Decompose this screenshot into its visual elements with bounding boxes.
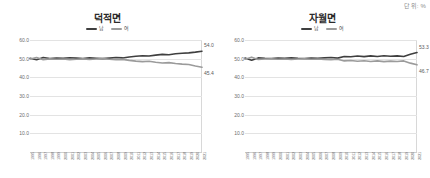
legend-label-female: 여 (339, 26, 344, 31)
x-axis-tick-label: 2015 (377, 152, 382, 160)
x-axis-tick-label: 1995 (30, 152, 35, 160)
end-label-female: 46.7 (419, 68, 429, 74)
x-axis-tick-label: 2016 (169, 152, 174, 160)
x-axis-tick-label: 2002 (291, 152, 296, 160)
x-axis-tick-label: 2021 (202, 152, 207, 160)
y-axis-tick-label: 30.0 (19, 93, 29, 99)
x-axis-tick-label: 1998 (50, 152, 55, 160)
chart-title-deokjeok: 덕적면 (0, 10, 215, 25)
legend-swatch-female-icon (326, 28, 337, 30)
x-axis-tick-label: 2003 (298, 152, 303, 160)
x-axis-tick-label: 2009 (123, 152, 128, 160)
legend-item-female[interactable]: 여 (326, 26, 344, 31)
x-axis-tick-label: 2002 (76, 152, 81, 160)
legend-label-male: 남 (314, 26, 319, 31)
x-axis-tick-label: 2008 (331, 152, 336, 160)
x-axis-tick-label: 2018 (182, 152, 187, 160)
x-axis-tick-label: 2006 (103, 152, 108, 160)
x-axis-tick-label: 1997 (43, 152, 48, 160)
x-axis-tick-label: 1996 (37, 152, 42, 160)
legend-item-male[interactable]: 남 (301, 26, 319, 31)
x-axis-tick-label: 2019 (189, 152, 194, 160)
x-axis-tick-label: 2004 (305, 152, 310, 160)
x-axis-tick-label: 2005 (311, 152, 316, 160)
legend-deokjeok: 남 여 (0, 26, 215, 31)
end-label-female: 45.4 (204, 70, 214, 76)
x-axis-tick-label: 2019 (404, 152, 409, 160)
y-axis-tick-label: 10.0 (234, 130, 244, 136)
y-axis-tick-label: 40.0 (234, 74, 244, 80)
x-axis-tick-label: 1998 (265, 152, 270, 160)
y-axis-tick-label: 40.0 (19, 74, 29, 80)
plot-area-jawol: 60.050.040.030.020.010.0 53.3 46.7 (215, 38, 430, 156)
x-axis-tick-label: 2020 (195, 152, 200, 160)
x-axis-ticks-deokjeok: 1995199619971998199920002001200220032004… (30, 152, 202, 178)
x-axis-tick-label: 2000 (63, 152, 68, 160)
chart-panel-jawol: 자월면 남 여 60.050.040.030.020.010.0 53.3 46… (215, 0, 430, 178)
legend-swatch-male-icon (301, 28, 312, 30)
x-axis-tick-label: 2010 (129, 152, 134, 160)
x-axis-tick-label: 2003 (83, 152, 88, 160)
x-axis-tick-label: 2001 (70, 152, 75, 160)
chart-title-jawol: 자월면 (215, 10, 430, 25)
x-axis-tick-label: 1999 (56, 152, 61, 160)
chart-page: 단위: % 덕적면 남 여 60.050.040.030.020.010.0 5… (0, 0, 430, 178)
end-label-male: 54.0 (204, 42, 214, 48)
legend-label-male: 남 (99, 26, 104, 31)
y-axis-tick-label: 30.0 (234, 93, 244, 99)
y-axis-tick-label: 60.0 (19, 37, 29, 43)
x-axis-tick-label: 2014 (371, 152, 376, 160)
x-axis-tick-label: 1999 (271, 152, 276, 160)
legend-label-female: 여 (124, 26, 129, 31)
x-axis-tick-label: 2015 (162, 152, 167, 160)
x-axis-tick-label: 2006 (318, 152, 323, 160)
x-axis-tick-label: 1996 (252, 152, 257, 160)
y-axis-tick-label: 60.0 (234, 37, 244, 43)
legend-item-female[interactable]: 여 (111, 26, 129, 31)
y-axis-tick-label: 50.0 (19, 56, 29, 62)
x-axis-tick-label: 2001 (285, 152, 290, 160)
x-axis-tick-label: 2013 (364, 152, 369, 160)
x-axis-tick-label: 2011 (351, 152, 356, 160)
x-axis-tick-label: 2008 (116, 152, 121, 160)
x-axis-tick-label: 2020 (410, 152, 415, 160)
x-axis-tick-label: 2007 (324, 152, 329, 160)
series-lines-deokjeok (30, 40, 202, 152)
series-line-female (30, 58, 202, 68)
x-axis-tick-label: 2012 (142, 152, 147, 160)
x-axis-tick-label: 1997 (258, 152, 263, 160)
legend-swatch-female-icon (111, 28, 122, 30)
x-axis-tick-label: 2021 (417, 152, 422, 160)
x-axis-tick-label: 2017 (391, 152, 396, 160)
x-axis-tick-label: 1995 (245, 152, 250, 160)
y-axis-tick-label: 10.0 (19, 130, 29, 136)
x-axis-tick-label: 2004 (90, 152, 95, 160)
x-axis-ticks-jawol: 1995199619971998199920002001200220032004… (245, 152, 417, 178)
legend-item-male[interactable]: 남 (86, 26, 104, 31)
y-axis-tick-label: 50.0 (234, 56, 244, 62)
x-axis-tick-label: 2009 (338, 152, 343, 160)
x-axis-tick-label: 2010 (344, 152, 349, 160)
x-axis-tick-label: 2017 (176, 152, 181, 160)
x-axis-tick-label: 2011 (136, 152, 141, 160)
series-lines-jawol (245, 40, 417, 152)
y-axis-tick-label: 20.0 (234, 112, 244, 118)
x-axis-tick-label: 2012 (357, 152, 362, 160)
legend-swatch-male-icon (86, 28, 97, 30)
x-axis-tick-label: 2000 (278, 152, 283, 160)
chart-panel-deokjeok: 덕적면 남 여 60.050.040.030.020.010.0 54.0 45… (0, 0, 215, 178)
legend-jawol: 남 여 (215, 26, 430, 31)
x-axis-tick-label: 2018 (397, 152, 402, 160)
x-axis-tick-label: 2016 (384, 152, 389, 160)
end-label-male: 53.3 (419, 44, 429, 50)
x-axis-tick-label: 2007 (109, 152, 114, 160)
x-axis-tick-label: 2014 (156, 152, 161, 160)
x-axis-tick-label: 2005 (96, 152, 101, 160)
plot-area-deokjeok: 60.050.040.030.020.010.0 54.0 45.4 (0, 38, 215, 156)
x-axis-tick-label: 2013 (149, 152, 154, 160)
y-axis-tick-label: 20.0 (19, 112, 29, 118)
